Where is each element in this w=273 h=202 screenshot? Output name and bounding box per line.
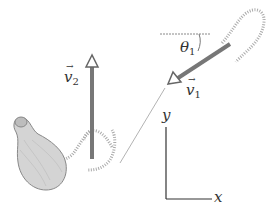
dotted-trajectory-left (62, 132, 90, 160)
v1-label: → v1 (186, 83, 201, 100)
balloon (14, 117, 66, 190)
v2-arrow (86, 55, 98, 159)
x-axis-label: x (214, 190, 222, 202)
string-line (120, 88, 165, 163)
coordinate-axes (166, 127, 212, 199)
y-axis-label: y (162, 108, 170, 123)
dotted-trajectory-top (222, 10, 264, 62)
theta1-label: θ1 (180, 40, 195, 57)
diagram-canvas (0, 0, 273, 202)
angle-arc (198, 34, 200, 51)
v2-label: → v2 (64, 70, 79, 87)
vector-arrow-icon: → (66, 62, 74, 71)
v1-arrow (168, 44, 230, 84)
dotted-trajectory-mid (84, 130, 112, 147)
vector-arrow-icon: → (188, 75, 196, 84)
